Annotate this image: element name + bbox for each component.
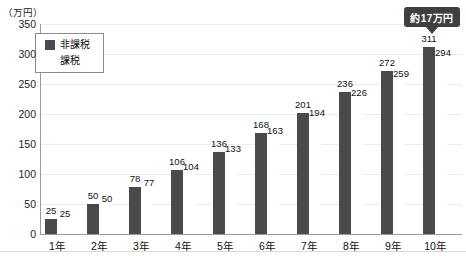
x-label-9: 9年: [385, 238, 401, 253]
gridline-300: [41, 54, 462, 55]
y-tick-250: 250: [0, 78, 36, 90]
bar-value-s1-c9: 259: [393, 68, 409, 79]
y-tick-100: 100: [0, 168, 36, 180]
bar-s1-c3: [141, 188, 153, 234]
gridline-350: [41, 24, 462, 25]
bar-s1-c10: [435, 58, 447, 234]
x-label-6: 6年: [259, 238, 275, 253]
x-label-7: 7年: [301, 238, 317, 253]
legend-label-1: 課税: [60, 56, 80, 66]
bar-value-s0-c10: 311: [421, 33, 436, 44]
x-label-8: 8年: [343, 238, 359, 253]
y-tick-50: 50: [0, 198, 36, 210]
bar-value-s0-c2: 50: [88, 190, 99, 201]
x-label-5: 5年: [217, 238, 233, 253]
bar-s0-c5: [213, 152, 225, 234]
legend: 非課税課税: [35, 33, 104, 73]
x-label-2: 2年: [91, 238, 107, 253]
legend-item-0: 非課税: [45, 39, 103, 52]
y-tick-200: 200: [0, 108, 36, 120]
bar-s0-c3: [129, 187, 141, 234]
y-tick-0: 0: [0, 228, 36, 240]
annotation-pointer-icon: [426, 27, 438, 34]
annotation-badge: 約17万円: [404, 7, 460, 27]
legend-swatch-icon-1: [45, 56, 55, 66]
bar-s1-c4: [183, 172, 195, 234]
bar-s1-c1: [57, 219, 69, 234]
bar-chart: （万円） 25255050787710610413613316816320119…: [0, 0, 466, 256]
bar-s1-c6: [267, 136, 279, 234]
bar-value-s0-c3: 78: [130, 173, 141, 184]
bar-s1-c7: [309, 118, 321, 234]
bar-value-s1-c8: 226: [351, 87, 367, 98]
x-axis-line: [40, 234, 462, 235]
bar-s1-c5: [225, 154, 237, 234]
y-axis-unit-label: （万円）: [3, 5, 43, 19]
legend-item-1: 課税: [45, 55, 103, 68]
bar-s1-c8: [351, 98, 363, 234]
bar-value-s1-c1: 25: [60, 208, 71, 219]
bar-s1-c9: [393, 79, 405, 234]
bar-s0-c4: [171, 170, 183, 234]
bar-s1-c2: [99, 204, 111, 234]
bar-s0-c1: [45, 219, 57, 234]
bar-value-s1-c4: 104: [183, 161, 199, 172]
legend-label-0: 非課税: [60, 40, 90, 50]
x-label-1: 1年: [49, 238, 65, 253]
bar-value-s0-c1: 25: [46, 205, 57, 216]
bar-value-s1-c3: 77: [144, 177, 155, 188]
legend-swatch-icon-0: [45, 40, 55, 50]
bar-s0-c2: [87, 204, 99, 234]
bar-value-s1-c2: 50: [102, 193, 113, 204]
bar-value-s1-c7: 194: [309, 107, 325, 118]
bar-value-s1-c6: 163: [267, 125, 283, 136]
x-label-3: 3年: [133, 238, 149, 253]
x-label-10: 10年: [424, 238, 446, 253]
bar-s0-c8: [339, 92, 351, 234]
bar-s0-c6: [255, 133, 267, 234]
bar-s0-c10: [423, 47, 435, 234]
bar-s0-c9: [381, 71, 393, 234]
bar-s0-c7: [297, 113, 309, 234]
y-tick-300: 300: [0, 48, 36, 60]
x-label-4: 4年: [175, 238, 191, 253]
bar-value-s1-c5: 133: [225, 143, 241, 154]
y-tick-150: 150: [0, 138, 36, 150]
annotation-text: 約17万円: [410, 10, 454, 25]
y-tick-350: 350: [0, 18, 36, 30]
bar-value-s1-c10: 294: [435, 47, 451, 58]
bar-value-s0-c9: 272: [379, 57, 395, 68]
